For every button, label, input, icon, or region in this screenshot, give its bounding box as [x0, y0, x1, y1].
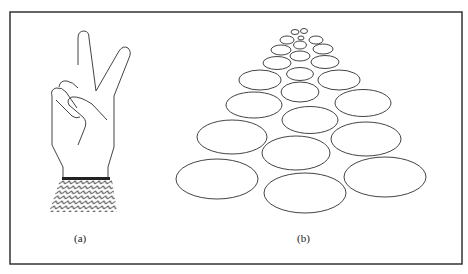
cuff-band	[62, 177, 110, 180]
ellipse-23	[344, 157, 426, 197]
ellipse-12	[239, 70, 281, 90]
caption-a: (a)	[74, 232, 86, 244]
ellipse-16	[282, 107, 338, 134]
palm-left	[52, 96, 63, 177]
panel-a-hand	[52, 31, 131, 177]
ellipse-5	[309, 36, 323, 44]
ellipse-21	[176, 159, 258, 199]
ellipse-19	[262, 136, 330, 170]
ellipse-7	[290, 51, 310, 61]
ellipse-13	[281, 82, 319, 102]
ellipse-6	[271, 45, 291, 55]
ellipse-8	[313, 44, 333, 54]
ellipse-15	[226, 92, 282, 118]
ellipse-4	[294, 41, 307, 49]
ellipse-20	[331, 122, 401, 156]
ring-finger-top	[59, 81, 78, 88]
ellipse-10	[287, 68, 314, 81]
panel-b-ellipse-grid	[176, 29, 426, 214]
ellipse-18	[197, 120, 267, 154]
middle-finger	[96, 47, 130, 96]
thumb	[68, 97, 107, 120]
ellipse-0	[291, 30, 299, 35]
ellipse-22	[264, 173, 346, 213]
ellipse-14	[318, 70, 360, 90]
palm-right	[108, 96, 114, 177]
figure-canvas	[0, 0, 468, 274]
hand-cuff	[49, 177, 117, 212]
caption-b: (b)	[297, 232, 310, 244]
ellipse-3	[280, 36, 294, 44]
ellipse-17	[335, 90, 391, 117]
ellipse-9	[263, 57, 291, 70]
ring-finger	[52, 88, 78, 108]
index-finger	[78, 31, 96, 91]
thumb-lower	[69, 105, 86, 145]
ellipse-1	[301, 29, 308, 34]
cuff-body	[49, 180, 117, 212]
ellipse-2	[298, 36, 304, 40]
ellipse-11	[311, 56, 339, 69]
